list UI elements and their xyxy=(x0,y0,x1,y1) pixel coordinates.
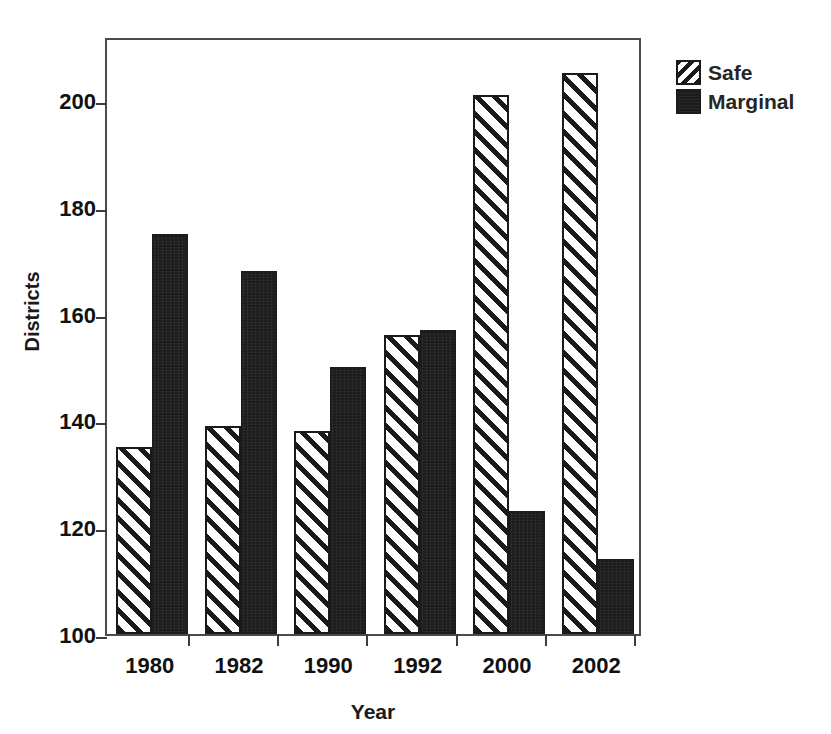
y-axis-tick-label: 200 xyxy=(40,91,96,113)
bar-safe-1990 xyxy=(294,431,330,634)
x-axis-tick-mark xyxy=(545,634,547,646)
plot-area xyxy=(105,38,641,636)
legend-swatch-marginal-icon xyxy=(676,89,701,114)
y-axis-tick-label: 100 xyxy=(40,625,96,647)
y-axis-tick-mark xyxy=(96,637,107,639)
bar-marginal-1982 xyxy=(241,271,277,634)
bar-marginal-2000 xyxy=(509,511,545,634)
y-axis-tick-mark xyxy=(96,210,107,212)
x-axis-tick-mark xyxy=(456,634,458,646)
bar-chart: Districts 100120140160180200 Year SafeMa… xyxy=(0,0,831,734)
y-axis-tick-label: 180 xyxy=(40,198,96,220)
x-axis-tick-mark xyxy=(188,634,190,646)
y-axis-tick-mark xyxy=(96,317,107,319)
legend-item-marginal: Marginal xyxy=(676,87,826,116)
bar-safe-1992 xyxy=(384,335,420,634)
x-axis-tick-mark xyxy=(366,634,368,646)
bar-marginal-1980 xyxy=(152,234,188,634)
y-axis-tick-mark xyxy=(96,103,107,105)
chart-legend: SafeMarginal xyxy=(676,58,826,116)
legend-swatch-safe-icon xyxy=(676,60,701,85)
x-axis-title: Year xyxy=(105,700,641,724)
bar-safe-1980 xyxy=(116,447,152,634)
x-axis-tick-label: 2002 xyxy=(541,655,651,677)
bar-safe-1982 xyxy=(205,426,241,634)
bar-marginal-2002 xyxy=(598,559,634,634)
y-axis-tick-label: 120 xyxy=(40,518,96,540)
legend-item-safe: Safe xyxy=(676,58,826,87)
legend-label: Marginal xyxy=(708,90,794,114)
bar-marginal-1992 xyxy=(420,330,456,634)
legend-label: Safe xyxy=(708,61,752,85)
y-axis-tick-mark xyxy=(96,530,107,532)
x-axis-tick-mark xyxy=(277,634,279,646)
y-axis-tick-label: 140 xyxy=(40,411,96,433)
y-axis-tick-label: 160 xyxy=(40,305,96,327)
y-axis-tick-mark xyxy=(96,423,107,425)
y-axis-tick-labels: 100120140160180200 xyxy=(38,0,96,734)
bar-safe-2000 xyxy=(473,95,509,634)
x-axis-tick-mark xyxy=(634,634,636,646)
bar-marginal-1990 xyxy=(330,367,366,634)
bar-safe-2002 xyxy=(562,73,598,634)
